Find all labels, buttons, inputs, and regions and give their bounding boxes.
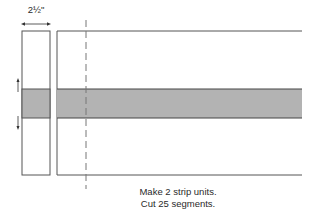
caption-line-1: Make 2 strip units. — [100, 186, 256, 198]
press-arrow-up-icon — [17, 78, 20, 92]
width-arrow-icon — [21, 22, 51, 25]
strip-unit-band — [57, 89, 302, 118]
segment-band — [22, 89, 50, 118]
dimension-label: 2½" — [22, 4, 50, 15]
press-arrow-down-icon — [17, 116, 20, 130]
caption-line-2: Cut 25 segments. — [100, 198, 256, 210]
